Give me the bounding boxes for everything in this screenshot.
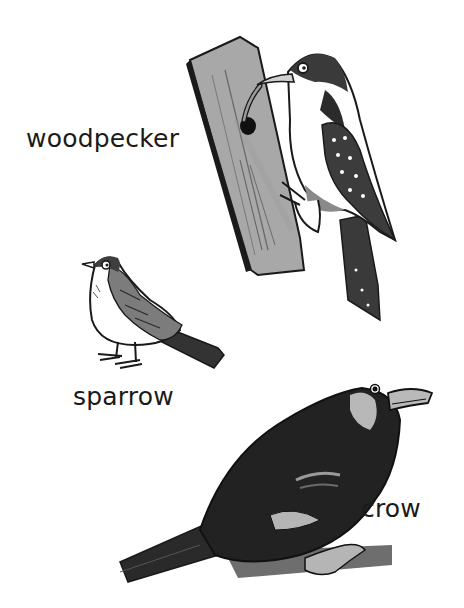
sparrow-label: sparrow <box>73 382 174 411</box>
tree-trunk <box>186 37 304 275</box>
crow-label: crow <box>361 494 421 523</box>
crow-bird <box>120 385 432 583</box>
woodpecker-label: woodpecker <box>26 124 179 153</box>
sparrow-bird <box>82 256 224 368</box>
